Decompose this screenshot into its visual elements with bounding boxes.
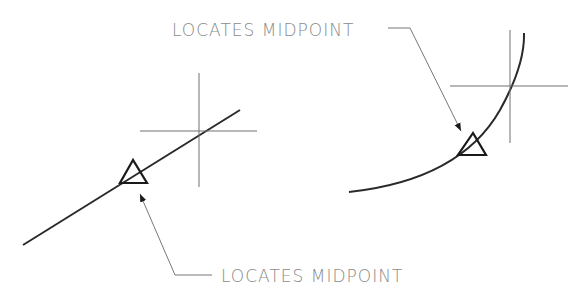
label-locates-midpoint-top: LOCATES MIDPOINT	[172, 20, 354, 40]
label-locates-midpoint-bottom: LOCATES MIDPOINT	[221, 266, 403, 286]
leader-line	[140, 194, 212, 275]
crosshair-cursor-icon	[140, 73, 257, 187]
crosshair-cursor-icon	[450, 30, 568, 143]
straight-line-object	[23, 110, 240, 245]
arc-object	[349, 33, 524, 192]
left-example: LOCATES MIDPOINT	[23, 73, 403, 286]
midpoint-snap-diagram: LOCATES MIDPOINT LOCATES MIDPOINT	[0, 0, 588, 306]
right-example: LOCATES MIDPOINT	[172, 20, 568, 192]
leader-line	[388, 28, 461, 131]
